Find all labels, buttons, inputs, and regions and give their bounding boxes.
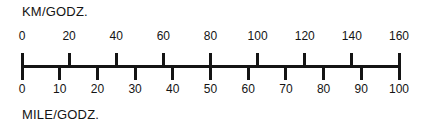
km-tick-label-60: 60 xyxy=(157,29,170,43)
km-tick-label-80: 80 xyxy=(204,29,217,43)
km-tick-label-20: 20 xyxy=(62,29,75,43)
mile-tick-90 xyxy=(360,65,363,80)
km-tick-80 xyxy=(209,53,212,80)
km-tick-label-160: 160 xyxy=(389,29,409,43)
mile-tick-label-0: 0 xyxy=(19,82,26,96)
mile-tick-label-10: 10 xyxy=(53,82,66,96)
mile-tick-label-30: 30 xyxy=(128,82,141,96)
km-tick-label-40: 40 xyxy=(110,29,123,43)
km-tick-label-100: 100 xyxy=(248,29,268,43)
mile-tick-label-90: 90 xyxy=(355,82,368,96)
mile-tick-label-70: 70 xyxy=(279,82,292,96)
km-tick-label-0: 0 xyxy=(19,29,26,43)
km-tick-160 xyxy=(398,53,401,80)
km-tick-140 xyxy=(350,53,353,68)
mile-per-hour-caption: MILE/GODZ. xyxy=(22,107,99,122)
mile-tick-label-100: 100 xyxy=(389,82,409,96)
km-tick-120 xyxy=(303,53,306,68)
mile-tick-80 xyxy=(322,65,325,80)
mile-tick-30 xyxy=(134,65,137,80)
mile-tick-label-50: 50 xyxy=(204,82,217,96)
km-tick-20 xyxy=(68,53,71,68)
mile-tick-60 xyxy=(247,65,250,80)
mile-tick-20 xyxy=(96,65,99,80)
speed-conversion-scale: KM/GODZ. MILE/GODZ. 02040608010012014016… xyxy=(0,0,425,134)
km-tick-label-140: 140 xyxy=(342,29,362,43)
km-tick-label-120: 120 xyxy=(295,29,315,43)
mile-tick-10 xyxy=(58,65,61,80)
mile-tick-label-20: 20 xyxy=(91,82,104,96)
mile-tick-70 xyxy=(284,65,287,80)
km-tick-40 xyxy=(115,53,118,68)
mile-tick-label-60: 60 xyxy=(242,82,255,96)
km-tick-60 xyxy=(162,53,165,68)
km-tick-100 xyxy=(256,53,259,68)
mile-tick-40 xyxy=(171,65,174,80)
mile-tick-label-40: 40 xyxy=(166,82,179,96)
km-tick-0 xyxy=(21,53,24,80)
mile-tick-label-80: 80 xyxy=(317,82,330,96)
